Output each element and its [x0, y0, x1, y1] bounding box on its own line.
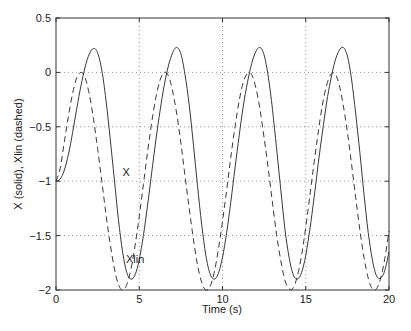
y-tick-label: 0.5 — [36, 12, 51, 24]
x-tick-label: 0 — [53, 293, 59, 305]
y-tick-label: −0.5 — [29, 121, 51, 133]
y-tick-label: −1 — [38, 175, 51, 187]
annotation-x: X — [123, 166, 131, 178]
y-axis-label: X (solid), Xlin (dashed) — [12, 98, 24, 209]
grid — [56, 18, 389, 290]
y-tick-label: 0 — [45, 66, 51, 78]
series-group — [56, 47, 389, 290]
x-tick-label: 5 — [136, 293, 142, 305]
x-tick-label: 20 — [383, 293, 395, 305]
annotation-xlin: Xlin — [126, 253, 144, 265]
ticks: 051015200.50−0.5−1−1.5−2 — [29, 12, 395, 305]
x-axis-label: Time (s) — [202, 303, 242, 315]
series-line-x — [56, 47, 389, 279]
chart: 051015200.50−0.5−1−1.5−2 Time (s) X (sol… — [0, 0, 411, 331]
x-tick-label: 15 — [300, 293, 312, 305]
y-tick-label: −1.5 — [29, 230, 51, 242]
y-tick-label: −2 — [38, 284, 51, 296]
